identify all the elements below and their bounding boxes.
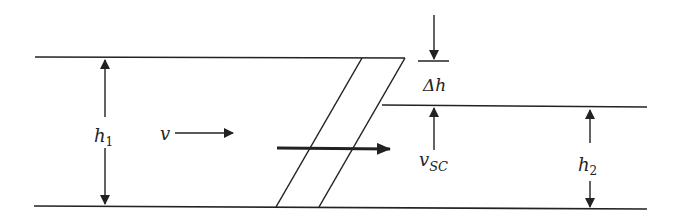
- channel-bed-line: [34, 206, 647, 209]
- surge-front-right-edge: [319, 58, 405, 207]
- v-label: v: [160, 123, 170, 144]
- surge-front-left-edge: [276, 58, 362, 207]
- h1-label: h1: [94, 125, 113, 149]
- downstream-surface-line: [382, 105, 647, 107]
- v-sc-label: vSC: [419, 149, 448, 174]
- upstream-surface-line: [35, 57, 405, 58]
- delta-h-label: Δh: [422, 75, 446, 95]
- surge-velocity-arrow: [277, 148, 390, 149]
- h2-label: h2: [578, 154, 597, 178]
- diagram-canvas: h1 v Δh vSC h2: [0, 0, 680, 221]
